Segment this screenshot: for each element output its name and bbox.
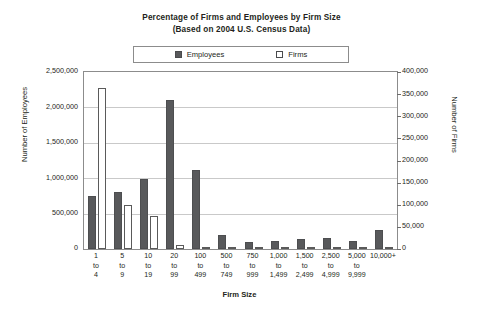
bar-group xyxy=(110,72,136,249)
bar-employees xyxy=(192,170,200,249)
bar-employees xyxy=(245,242,253,249)
x-axis-category-line: to xyxy=(161,262,187,272)
x-axis-category-line: 100 xyxy=(187,252,213,262)
x-axis-category-line: 19 xyxy=(135,271,161,281)
x-axis-category-line: 500 xyxy=(213,252,239,262)
bar-firms xyxy=(307,247,315,249)
x-axis-category-line xyxy=(370,262,396,272)
bar-group xyxy=(162,72,188,249)
bar-firms xyxy=(359,247,367,249)
y-axis-left-tick-label: 500,000 xyxy=(52,209,78,216)
bar-firms xyxy=(150,216,158,249)
x-axis-category-line: to xyxy=(213,262,239,272)
y-axis-left-tick-label: 2,000,000 xyxy=(46,103,78,110)
x-axis-category-label: 5to9 xyxy=(109,252,135,281)
x-axis-category-line: 4 xyxy=(83,271,109,281)
bar-group xyxy=(293,72,319,249)
y-axis-right-tick xyxy=(397,138,401,139)
x-axis-category-line: 1,499 xyxy=(266,271,292,281)
legend-swatch-firms-icon xyxy=(276,51,283,58)
chart-legend: Employees Firms xyxy=(133,46,349,63)
y-axis-left-tick-label: 0 xyxy=(74,244,78,251)
x-axis-category-line: to xyxy=(344,262,370,272)
bar-employees xyxy=(375,230,383,249)
x-axis-category-line: 1 xyxy=(83,252,109,262)
x-axis-category-label: 750to999 xyxy=(239,252,265,281)
x-axis-category-label: 1,500to2,499 xyxy=(292,252,318,281)
x-axis-category-line: to xyxy=(266,262,292,272)
x-axis-category-line: to xyxy=(135,262,161,272)
x-axis-category-line: to xyxy=(292,262,318,272)
bar-employees xyxy=(271,241,279,249)
x-axis-category-line: to xyxy=(187,262,213,272)
y-axis-right-tick-label: 250,000 xyxy=(402,134,428,141)
x-axis-category-line: 9 xyxy=(109,271,135,281)
x-axis-category-line xyxy=(370,271,396,281)
bar-group xyxy=(136,72,162,249)
bar-employees xyxy=(323,238,331,249)
x-axis-category-line: 2,500 xyxy=(318,252,344,262)
x-axis-category-label: 20to99 xyxy=(161,252,187,281)
x-axis-category-line: 99 xyxy=(161,271,187,281)
x-axis-category-line: to xyxy=(318,262,344,272)
y-axis-right-tick xyxy=(397,205,401,206)
x-axis-category-label: 100to499 xyxy=(187,252,213,281)
bar-employees xyxy=(218,235,226,249)
y-axis-right-tick xyxy=(397,72,401,73)
x-axis-category-label: 1,000to1,499 xyxy=(266,252,292,281)
bar-employees xyxy=(114,192,122,249)
y-axis-left-labels: 2,500,0002,000,0001,500,0001,000,000500,… xyxy=(20,71,78,248)
x-axis-category-line: to xyxy=(83,262,109,272)
x-axis-category-label: 10to19 xyxy=(135,252,161,281)
bar-employees xyxy=(297,239,305,249)
x-axis-category-line: 9,999 xyxy=(344,271,370,281)
y-axis-right-tick-label: 100,000 xyxy=(402,200,428,207)
x-axis-category-line: 4,999 xyxy=(318,271,344,281)
y-axis-right-tick-label: 200,000 xyxy=(402,156,428,163)
bar-firms xyxy=(176,245,184,249)
y-axis-right-tick-label: 0 xyxy=(402,244,406,251)
bar-group xyxy=(371,72,397,249)
bar-firms xyxy=(228,247,236,249)
bar-firms xyxy=(255,247,263,249)
legend-label-employees: Employees xyxy=(187,50,225,59)
y-axis-left-tick-label: 1,500,000 xyxy=(46,138,78,145)
bar-group xyxy=(319,72,345,249)
x-axis-category-line: to xyxy=(109,262,135,272)
y-axis-right-tick-label: 50,000 xyxy=(402,222,424,229)
bar-group xyxy=(345,72,371,249)
x-axis-category-label: 1to4 xyxy=(83,252,109,281)
x-axis-category-line: 999 xyxy=(239,271,265,281)
x-axis-category-line: 499 xyxy=(187,271,213,281)
page-title: Percentage of Firms and Employees by Fir… xyxy=(0,12,483,35)
bar-group xyxy=(214,72,240,249)
bar-employees xyxy=(166,100,174,249)
y-axis-right-tick xyxy=(397,161,401,162)
y-axis-right-tick xyxy=(397,227,401,228)
bar-group xyxy=(188,72,214,249)
y-axis-left-tick-label: 2,500,000 xyxy=(46,67,78,74)
x-axis-category-line: 750 xyxy=(239,252,265,262)
legend-item-firms: Firms xyxy=(276,50,307,59)
x-axis-category-label: 10,000+ xyxy=(370,252,396,281)
y-axis-right-tick xyxy=(397,94,401,95)
x-axis-category-line: 2,499 xyxy=(292,271,318,281)
x-axis-category-line: 5 xyxy=(109,252,135,262)
bar-group xyxy=(240,72,266,249)
y-axis-right-tick-label: 400,000 xyxy=(402,67,428,74)
bar-firms xyxy=(98,88,106,249)
x-axis-category-line: to xyxy=(239,262,265,272)
bar-employees xyxy=(349,241,357,249)
chart-title-line-1: Percentage of Firms and Employees by Fir… xyxy=(0,12,483,24)
x-axis-category-line: 10,000+ xyxy=(370,252,396,262)
bar-employees xyxy=(88,196,96,249)
bar-firms xyxy=(333,247,341,249)
y-axis-right-labels: 400,000350,000300,000250,000200,000150,0… xyxy=(402,71,460,248)
bar-group xyxy=(84,72,110,249)
x-axis-category-line: 1,000 xyxy=(266,252,292,262)
x-axis-category-line: 749 xyxy=(213,271,239,281)
y-axis-right-tick-label: 150,000 xyxy=(402,178,428,185)
y-axis-right-tick-label: 350,000 xyxy=(402,90,428,97)
bar-employees xyxy=(140,179,148,249)
x-axis-category-line: 1,500 xyxy=(292,252,318,262)
